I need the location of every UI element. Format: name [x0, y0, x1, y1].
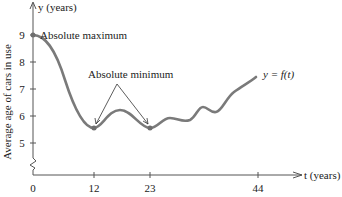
min-point-12: [92, 126, 97, 131]
x-axis-label: t (years): [304, 169, 341, 182]
y-axis-break-icon: [30, 158, 36, 175]
abs-min-label: Absolute minimum: [88, 68, 174, 80]
curve-line: [33, 35, 256, 128]
x-tick-12: 12: [89, 182, 100, 194]
y-tick-6: 6: [19, 110, 25, 122]
abs-min-arrows: [95, 84, 148, 124]
max-point: [31, 33, 36, 38]
chart: 9 8 7 6 5 0 12 23 44 y (years) t (years)…: [0, 0, 342, 197]
x-tick-0: 0: [30, 182, 36, 194]
y-axis-title: Average age of cars in use: [1, 44, 13, 160]
y-axis-label: y (years): [38, 1, 77, 14]
y-tick-7: 7: [19, 83, 25, 95]
x-tick-44: 44: [253, 182, 265, 194]
y-tick-9: 9: [19, 29, 25, 41]
curve-label: y = f(t): [262, 68, 295, 81]
min-point-23: [148, 126, 153, 131]
y-tick-8: 8: [19, 56, 25, 68]
x-tick-23: 23: [145, 182, 157, 194]
abs-max-label: Absolute maximum: [40, 29, 128, 41]
y-tick-5: 5: [19, 137, 25, 149]
